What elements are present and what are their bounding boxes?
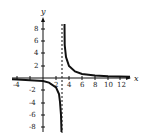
y-axis-label: y xyxy=(40,7,46,16)
svg-text:8: 8 xyxy=(34,25,38,33)
svg-text:6: 6 xyxy=(80,81,85,89)
svg-text:4: 4 xyxy=(34,49,39,57)
svg-text:-2: -2 xyxy=(29,86,36,94)
svg-text:-8: -8 xyxy=(29,123,36,131)
svg-text:10: 10 xyxy=(104,81,113,89)
svg-text:-6: -6 xyxy=(29,111,36,119)
rational-function-graph: x y -4 2 4 6 8 10 12 8 6 4 2 -2 -4 -6 -8 xyxy=(0,0,146,137)
svg-text:-4: -4 xyxy=(29,99,36,107)
y-arrow-icon xyxy=(41,17,45,22)
right-branch-curve xyxy=(65,24,131,77)
svg-text:4: 4 xyxy=(67,81,72,89)
svg-text:8: 8 xyxy=(93,81,97,89)
svg-text:2: 2 xyxy=(34,62,38,70)
x-axis-label: x xyxy=(134,74,139,83)
svg-text:12: 12 xyxy=(117,81,126,89)
svg-text:-4: -4 xyxy=(13,81,20,89)
svg-text:6: 6 xyxy=(34,37,39,45)
